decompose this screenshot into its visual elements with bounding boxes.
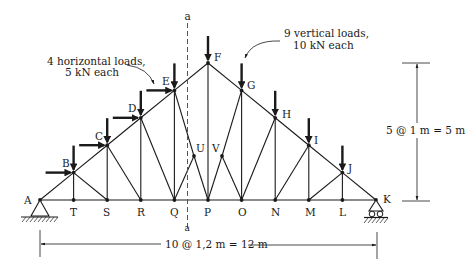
span-dimension: 10 @ 1,2 m = 12 m bbox=[40, 230, 377, 259]
joint-label-P: P bbox=[204, 206, 211, 218]
joint-I bbox=[307, 143, 311, 147]
member-EF bbox=[174, 63, 208, 90]
member-HO bbox=[242, 118, 276, 200]
joint-S bbox=[105, 198, 109, 202]
joint-label-V: V bbox=[211, 142, 220, 154]
joint-label-E: E bbox=[162, 75, 170, 87]
joint-label-K: K bbox=[383, 193, 391, 205]
joint-J bbox=[341, 171, 345, 175]
joint-label-D: D bbox=[128, 102, 136, 114]
member-IJ bbox=[309, 145, 343, 172]
member-JK bbox=[342, 173, 376, 200]
joint-N bbox=[273, 198, 277, 202]
joint-G bbox=[240, 89, 244, 93]
member-DE bbox=[141, 90, 175, 117]
member-HI bbox=[275, 118, 309, 145]
truss-members bbox=[40, 63, 376, 200]
joint-R bbox=[139, 198, 143, 202]
joint-D bbox=[139, 116, 143, 120]
vertical-loads-note-line1: 9 vertical loads, bbox=[284, 27, 369, 39]
joint-label-J: J bbox=[347, 162, 352, 174]
joint-C bbox=[105, 143, 109, 147]
joint-H bbox=[273, 116, 277, 120]
height-dimension: 5 @ 1 m = 5 m bbox=[384, 63, 465, 201]
joint-label-O: O bbox=[238, 206, 247, 218]
joint-F bbox=[206, 61, 210, 65]
joint-Q bbox=[173, 198, 177, 202]
member-EU bbox=[174, 90, 194, 156]
joint-label-S: S bbox=[103, 206, 110, 218]
member-JM bbox=[309, 173, 343, 200]
member-VO bbox=[222, 156, 242, 200]
truss-diagram: a a ABCDEFGHIJKTSRQPONMLUV bbox=[0, 0, 467, 274]
joint-label-A: A bbox=[23, 194, 32, 206]
member-BC bbox=[74, 145, 108, 172]
member-CD bbox=[107, 118, 141, 145]
joint-label-Q: Q bbox=[170, 206, 179, 218]
joint-B bbox=[72, 171, 76, 175]
member-VP bbox=[208, 156, 222, 200]
joint-label-C: C bbox=[95, 130, 103, 142]
joint-U bbox=[192, 154, 196, 158]
joint-label-F: F bbox=[214, 51, 221, 63]
member-UP bbox=[194, 156, 208, 200]
joint-label-I: I bbox=[314, 134, 318, 146]
section-label-bottom: a bbox=[185, 223, 191, 233]
joint-T bbox=[72, 198, 76, 202]
joint-label-M: M bbox=[305, 206, 316, 218]
joint-M bbox=[307, 198, 311, 202]
joint-E bbox=[173, 89, 177, 93]
joint-L bbox=[341, 198, 345, 202]
ground-hatch-A bbox=[22, 217, 58, 222]
joint-label-U: U bbox=[196, 142, 205, 154]
member-DQ bbox=[141, 118, 175, 200]
joint-label-N: N bbox=[271, 206, 280, 218]
joint-label-G: G bbox=[247, 79, 255, 91]
member-BS bbox=[74, 173, 108, 200]
joint-label-R: R bbox=[137, 206, 146, 218]
member-GH bbox=[242, 90, 276, 117]
span-dimension-label: 10 @ 1,2 m = 12 m bbox=[165, 238, 268, 250]
joint-label-L: L bbox=[339, 206, 346, 218]
ground-hatch-K bbox=[364, 218, 388, 223]
vertical-loads-note-line2: 10 kN each bbox=[293, 39, 354, 51]
height-dimension-label: 5 @ 1 m = 5 m bbox=[386, 124, 465, 136]
member-GV bbox=[222, 90, 242, 156]
joint-V bbox=[220, 154, 224, 158]
joint-label-H: H bbox=[282, 108, 291, 120]
joint-label-T: T bbox=[70, 206, 77, 218]
member-FG bbox=[208, 63, 242, 90]
member-UQ bbox=[174, 156, 194, 200]
joint-label-B: B bbox=[62, 157, 70, 169]
joint-O bbox=[240, 198, 244, 202]
horizontal-loads-note: 4 horizontal loads, 5 kN each bbox=[47, 55, 154, 84]
vertical-loads-note: 9 vertical loads, 10 kN each bbox=[245, 27, 369, 58]
member-AB bbox=[40, 173, 74, 200]
section-label-top: a bbox=[185, 10, 191, 22]
member-CR bbox=[107, 145, 141, 200]
member-IN bbox=[275, 145, 309, 200]
joint-P bbox=[206, 198, 210, 202]
horizontal-loads-note-line2: 5 kN each bbox=[65, 66, 119, 78]
